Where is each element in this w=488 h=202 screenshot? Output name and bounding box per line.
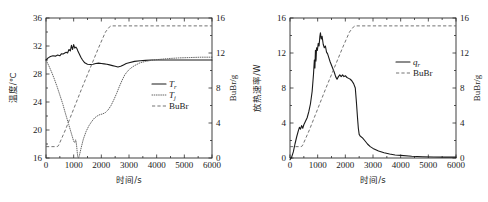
- y-tick-label: 32: [33, 41, 42, 51]
- figure-container: 0100020003000400050006000162024283236048…: [0, 0, 488, 202]
- x-tick-label: 3000: [120, 160, 139, 170]
- y-tick-label: 16: [277, 13, 287, 23]
- y-tick-label: 36: [33, 13, 43, 23]
- y-axis-title: 放热速率/W: [252, 64, 262, 112]
- y2-tick-label: 4: [216, 118, 221, 128]
- y-tick-label: 12: [277, 48, 286, 58]
- x-tick-label: 4000: [392, 160, 411, 170]
- series-T-r: [46, 45, 212, 67]
- legend-label: BuBr: [169, 101, 189, 111]
- right-chart-svg: 010002000300040005000600004812160481216时…: [244, 0, 488, 202]
- series-BuBr: [290, 26, 456, 147]
- chart-panel-left: 0100020003000400050006000162024283236048…: [0, 0, 244, 202]
- y2-tick-label: 16: [460, 13, 470, 23]
- y-tick-label: 20: [33, 125, 43, 135]
- x-tick-label: 2000: [336, 160, 355, 170]
- x-tick-label: 5000: [175, 160, 194, 170]
- x-axis-title: 时间/s: [360, 175, 386, 185]
- y2-axis-title: BuBr/g: [472, 74, 482, 101]
- x-tick-label: 4000: [148, 160, 167, 170]
- y-tick-label: 8: [282, 83, 287, 93]
- x-tick-label: 1000: [65, 160, 84, 170]
- y-tick-label: 24: [33, 97, 43, 107]
- x-tick-label: 1000: [309, 160, 328, 170]
- chart-panel-right: 010002000300040005000600004812160481216时…: [244, 0, 488, 202]
- y2-tick-label: 8: [216, 83, 221, 93]
- series-q-r: [290, 33, 456, 160]
- y2-tick-label: 0: [216, 153, 221, 163]
- x-tick-label: 0: [44, 160, 49, 170]
- x-tick-label: 5000: [419, 160, 438, 170]
- plot-frame: [290, 18, 456, 158]
- legend-label: qr: [413, 57, 421, 68]
- x-tick-label: 2000: [92, 160, 111, 170]
- x-tick-label: 0: [288, 160, 293, 170]
- y-tick-label: 16: [33, 153, 43, 163]
- x-axis-title: 时间/s: [116, 175, 142, 185]
- y-tick-label: 0: [282, 153, 287, 163]
- legend-label: BuBr: [413, 68, 433, 78]
- y2-tick-label: 8: [460, 83, 465, 93]
- y2-tick-label: 4: [460, 118, 465, 128]
- legend-label: Tr: [169, 79, 177, 90]
- plot-frame: [46, 18, 212, 158]
- y-tick-label: 4: [282, 118, 287, 128]
- left-chart-svg: 0100020003000400050006000162024283236048…: [0, 0, 244, 202]
- y-tick-label: 28: [33, 69, 43, 79]
- y2-tick-label: 0: [460, 153, 465, 163]
- y2-axis-title: BuBr/g: [228, 74, 238, 101]
- y2-tick-label: 12: [460, 48, 469, 58]
- legend-label: Tj: [169, 90, 176, 101]
- y2-tick-label: 16: [216, 13, 226, 23]
- series-BuBr: [46, 26, 212, 147]
- y-axis-title: 温度/℃: [8, 72, 18, 103]
- x-tick-label: 3000: [364, 160, 383, 170]
- y2-tick-label: 12: [216, 48, 225, 58]
